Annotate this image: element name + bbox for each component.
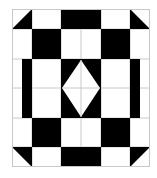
lower-right-square <box>101 118 130 147</box>
quilt-diagram <box>0 0 157 178</box>
top-center-block <box>61 9 101 29</box>
bottom-center-block <box>61 147 101 167</box>
right-bar <box>130 59 140 118</box>
upper-right-square <box>101 29 130 59</box>
upper-left-square <box>32 29 61 59</box>
lower-left-square <box>32 118 61 147</box>
left-bar <box>22 59 32 118</box>
